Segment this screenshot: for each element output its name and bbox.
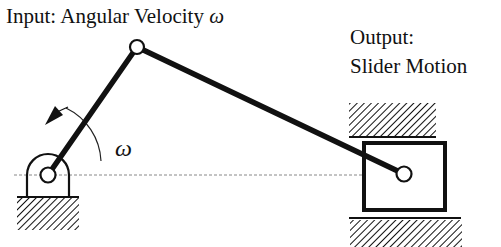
mechanism-drawing [0, 0, 501, 247]
slider-crank-diagram: Input: Angular Velocity ω Output: Slider… [0, 0, 501, 247]
ground-support [17, 154, 79, 230]
output-label-line1: Output: [350, 27, 414, 48]
crank-omega-label: ω [115, 136, 132, 160]
slider-pin-joint [397, 167, 412, 182]
input-label-text: Input: Angular Velocity [6, 4, 204, 28]
output-label-line2: Slider Motion [350, 56, 467, 77]
ground-pivot-joint [41, 168, 56, 183]
upper-guide [349, 103, 436, 137]
input-label: Input: Angular Velocity ω [6, 6, 224, 27]
crank-rod-joint [130, 40, 144, 54]
input-omega-symbol: ω [209, 4, 224, 28]
lower-guide [349, 218, 462, 247]
